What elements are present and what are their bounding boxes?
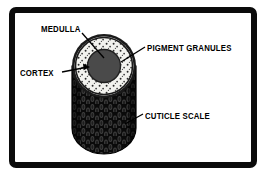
label-medulla: MEDULLA	[41, 24, 81, 34]
medulla-core	[88, 50, 121, 83]
label-pigment-granules: PIGMENT GRANULES	[147, 43, 232, 53]
diagram-canvas: MEDULLA PIGMENT GRANULES CORTEX CUTICLE …	[0, 0, 267, 178]
hair-structure-figure: MEDULLA PIGMENT GRANULES CORTEX CUTICLE …	[0, 0, 267, 178]
hair-cross-section	[72, 34, 136, 98]
label-cortex: CORTEX	[20, 68, 54, 78]
label-cuticle-scale: CUTICLE SCALE	[145, 111, 210, 121]
